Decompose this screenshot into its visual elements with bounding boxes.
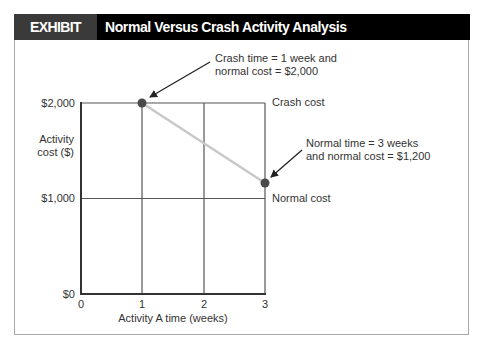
crash-point bbox=[138, 99, 147, 108]
crash-annotation-line1: Crash time = 1 week and bbox=[215, 52, 337, 64]
crash-arrow bbox=[150, 62, 210, 97]
crash-annotation-line2: normal cost = $2,000 bbox=[215, 65, 318, 77]
y-tick-2000: $2,000 bbox=[41, 97, 75, 109]
y-tick-1000: $1,000 bbox=[41, 192, 75, 204]
normal-point bbox=[261, 179, 270, 188]
x-tick-2: 2 bbox=[201, 298, 207, 310]
x-tick-1: 1 bbox=[139, 298, 145, 310]
y-tick-0: $0 bbox=[63, 288, 75, 300]
normal-cost-label: Normal cost bbox=[272, 192, 331, 204]
normal-annotation-line1: Normal time = 3 weeks bbox=[306, 137, 419, 149]
crash-cost-label: Crash cost bbox=[272, 96, 325, 108]
normal-arrow bbox=[271, 150, 302, 177]
normal-annotation-line2: and normal cost = $1,200 bbox=[306, 150, 430, 162]
gridlines bbox=[81, 103, 265, 294]
y-axis-label-line2: cost ($) bbox=[37, 146, 74, 158]
y-axis-label-line1: Activity bbox=[39, 133, 74, 145]
x-axis-label: Activity A time (weeks) bbox=[118, 312, 227, 324]
x-tick-3: 3 bbox=[262, 298, 268, 310]
x-tick-0: 0 bbox=[78, 298, 84, 310]
chart: $2,000 $1,000 $0 Activity cost ($) 0 1 2… bbox=[0, 0, 480, 348]
